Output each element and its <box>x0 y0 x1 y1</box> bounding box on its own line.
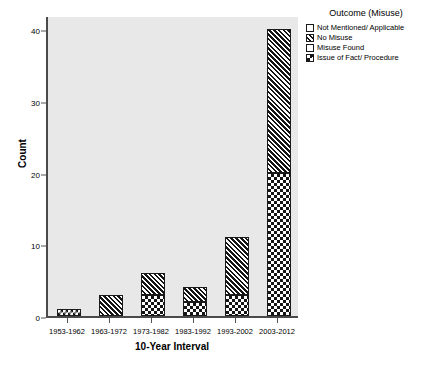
y-axis-tick-label: 30 <box>31 99 40 108</box>
y-axis-ticks: 010203040 <box>0 0 46 367</box>
bar-group <box>267 29 291 316</box>
bar-group <box>99 295 123 317</box>
x-axis-tick-label: 1983-1992 <box>175 327 211 336</box>
bar-segment <box>141 295 165 317</box>
bar-segment <box>225 295 249 317</box>
legend-item: No Misuse <box>306 33 432 42</box>
y-axis-tick-label: 0 <box>36 314 40 323</box>
bar-group <box>183 287 207 316</box>
bar-chart: Count 010203040 1953-19621963-19721973-1… <box>0 0 432 367</box>
x-axis-tick-label: 1963-1972 <box>91 327 127 336</box>
x-axis-ticks: 1953-19621963-19721973-19821983-19921993… <box>46 318 298 340</box>
bar-segment <box>225 237 249 294</box>
bar-group <box>57 309 81 316</box>
x-axis-tick-mark <box>277 318 278 323</box>
x-axis-tick-label: 2003-2012 <box>259 327 295 336</box>
bar-series-container <box>48 17 298 316</box>
bar-segment <box>183 287 207 301</box>
bar-segment <box>267 29 291 172</box>
x-axis-tick-label: 1993-2002 <box>217 327 253 336</box>
legend-swatch-icon <box>306 24 314 32</box>
legend: Outcome (Misuse) Not Mentioned/ Applicab… <box>306 8 432 63</box>
legend-swatch-icon <box>306 54 314 62</box>
y-axis-tick-label: 10 <box>31 242 40 251</box>
bar-segment <box>183 302 207 316</box>
legend-item: Issue of Fact/ Procedure <box>306 53 432 62</box>
legend-item: Not Mentioned/ Applicable <box>306 23 432 32</box>
x-axis-tick-mark <box>109 318 110 323</box>
bar-group <box>141 273 165 316</box>
bar-segment <box>141 273 165 295</box>
bar-segment <box>99 295 123 317</box>
plot-area <box>46 17 298 318</box>
legend-item-label: Issue of Fact/ Procedure <box>317 53 399 62</box>
legend-item-label: No Misuse <box>317 33 352 42</box>
x-axis-tick-label: 1953-1962 <box>49 327 85 336</box>
y-axis-tick-label: 40 <box>31 27 40 36</box>
legend-swatch-icon <box>306 44 314 52</box>
legend-item-label: Misuse Found <box>317 43 364 52</box>
legend-swatch-icon <box>306 34 314 42</box>
x-axis-tick-mark <box>193 318 194 323</box>
x-axis-tick-label: 1973-1982 <box>133 327 169 336</box>
bar-group <box>225 237 249 316</box>
legend-item: Misuse Found <box>306 43 432 52</box>
x-axis-title: 10-Year Interval <box>46 341 298 352</box>
bar-segment <box>267 173 291 316</box>
legend-items: Not Mentioned/ ApplicableNo MisuseMisuse… <box>306 23 432 62</box>
legend-item-label: Not Mentioned/ Applicable <box>317 23 404 32</box>
x-axis-tick-mark <box>235 318 236 323</box>
y-axis-tick-label: 20 <box>31 170 40 179</box>
x-axis-tick-mark <box>151 318 152 323</box>
bar-segment <box>57 309 81 316</box>
x-axis-tick-mark <box>67 318 68 323</box>
legend-title: Outcome (Misuse) <box>306 8 432 18</box>
